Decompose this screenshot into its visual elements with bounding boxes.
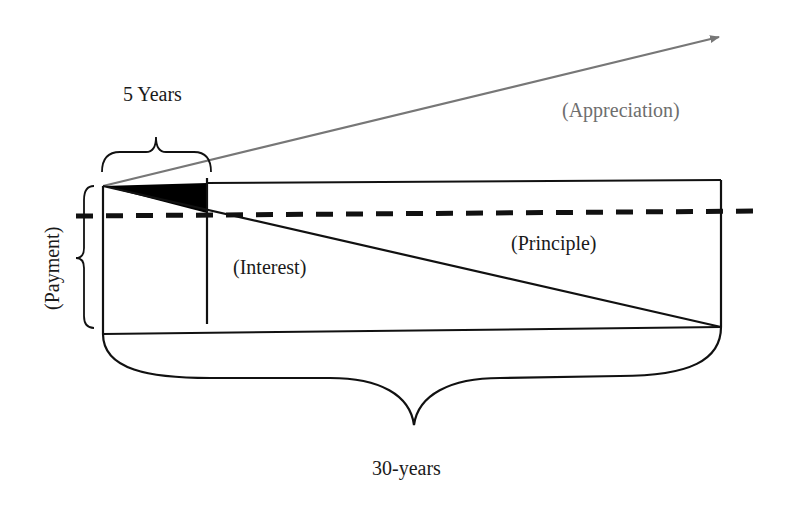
five-years-label: 5 Years xyxy=(123,84,182,104)
loan-rectangle-top xyxy=(207,180,721,183)
payment-dashed-line xyxy=(76,211,764,216)
payment-brace xyxy=(76,186,94,328)
five-year-brace xyxy=(102,137,211,172)
interest-principal-diagonal xyxy=(103,186,721,327)
payment-label: (Payment) xyxy=(42,227,62,310)
appreciation-label: (Appreciation) xyxy=(562,100,680,120)
principle-label: (Principle) xyxy=(511,233,597,253)
loan-rectangle-bottom xyxy=(103,327,721,334)
thirty-years-label: 30-years xyxy=(372,458,441,478)
interest-label: (Interest) xyxy=(233,257,306,277)
diagram-canvas xyxy=(0,0,798,507)
thirty-year-brace xyxy=(103,327,721,425)
